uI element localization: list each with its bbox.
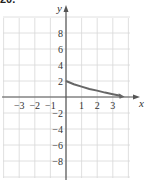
svg-text:6: 6 bbox=[58, 44, 63, 55]
svg-text:1: 1 bbox=[79, 100, 84, 111]
svg-text:x: x bbox=[138, 97, 144, 109]
svg-text:8: 8 bbox=[58, 28, 63, 39]
coordinate-plane: xy −3−2−11238642−2−4−6−8 bbox=[0, 0, 146, 184]
svg-text:−2: −2 bbox=[52, 108, 63, 119]
axes: xy bbox=[2, 2, 144, 180]
svg-text:y: y bbox=[56, 2, 62, 14]
svg-text:2: 2 bbox=[95, 100, 100, 111]
svg-text:4: 4 bbox=[58, 60, 63, 71]
svg-text:−4: −4 bbox=[52, 124, 63, 135]
svg-text:−8: −8 bbox=[52, 156, 63, 167]
svg-text:−6: −6 bbox=[52, 140, 63, 151]
svg-text:3: 3 bbox=[110, 100, 115, 111]
svg-text:2: 2 bbox=[58, 76, 63, 87]
svg-text:−2: −2 bbox=[29, 100, 40, 111]
svg-text:−3: −3 bbox=[14, 100, 25, 111]
curve-arrow-icon bbox=[119, 93, 125, 99]
